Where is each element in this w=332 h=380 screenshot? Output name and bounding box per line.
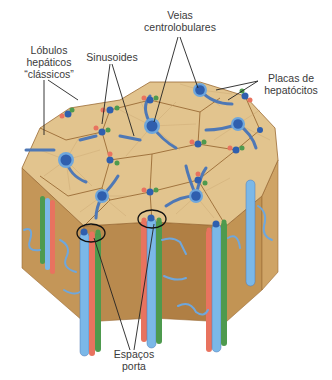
label-lobulos-line2: hepáticos xyxy=(14,56,84,68)
label-espacos-line2: porta xyxy=(104,360,164,372)
label-veias-centrolobulares: Veias centrolobulares xyxy=(140,9,220,33)
label-veias-line2: centrolobulares xyxy=(140,21,220,33)
label-lobulos-hepaticos: Lóbulos hepáticos “clássicos” xyxy=(14,44,84,80)
label-placas-line1: Placas de xyxy=(258,72,324,84)
label-lobulos-line3: “clássicos” xyxy=(14,68,84,80)
label-placas-hepatocitos: Placas de hepatócitos xyxy=(258,72,324,96)
label-sinusoides: Sinusoides xyxy=(82,51,142,63)
label-espacos-line1: Espaços xyxy=(104,348,164,360)
label-veias-line1: Veias xyxy=(140,9,220,21)
label-lobulos-line1: Lóbulos xyxy=(14,44,84,56)
lobule-top-surface xyxy=(22,82,278,226)
figure-caption xyxy=(0,372,332,380)
label-espacos-porta: Espaços porta xyxy=(104,348,164,372)
label-placas-line2: hepatócitos xyxy=(258,84,324,96)
